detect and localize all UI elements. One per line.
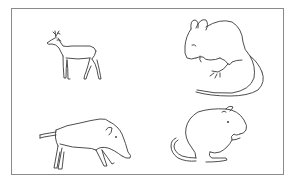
hamster-drawing xyxy=(171,106,247,162)
wild-boar-drawing xyxy=(40,119,131,169)
mouse-drawing xyxy=(185,20,264,96)
deer-drawing xyxy=(47,31,101,79)
animal-illustration xyxy=(0,0,293,183)
